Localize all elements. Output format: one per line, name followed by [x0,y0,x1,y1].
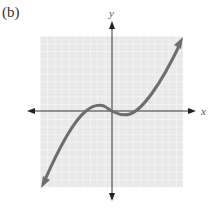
y-axis-label: y [108,7,114,19]
y-axis-top-arrow-icon [109,21,115,29]
x-axis-label: x [200,105,206,117]
x-axis-left-arrow-icon [27,108,35,114]
x-axis-right-arrow-icon [188,108,196,114]
cubic-graph: x y [0,0,217,212]
y-axis-bottom-arrow-icon [109,193,115,201]
